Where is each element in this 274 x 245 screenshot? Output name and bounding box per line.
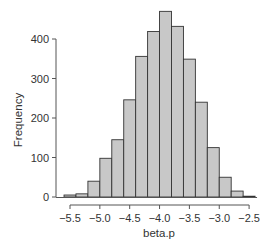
y-axis-title: Frequency — [12, 93, 24, 148]
x-tick-label: −5.5 — [59, 212, 81, 224]
histogram-bar — [112, 140, 124, 197]
histogram-bar — [136, 56, 148, 197]
y-tick-label: 300 — [31, 73, 49, 85]
histogram-bar — [231, 191, 243, 197]
y-tick-label: 400 — [31, 33, 49, 45]
histogram-bar — [243, 196, 255, 197]
x-tick-label: −5.0 — [89, 212, 111, 224]
histogram-bar — [124, 100, 136, 197]
histogram-bars — [64, 11, 255, 197]
histogram-bar — [183, 59, 195, 197]
y-tick-label: 200 — [31, 112, 49, 124]
histogram-bar — [195, 102, 207, 197]
x-tick-label: −3.5 — [179, 212, 201, 224]
x-tick-label: −3.0 — [208, 212, 230, 224]
x-tick-label: −2.5 — [238, 212, 260, 224]
x-axis-title: beta.p — [143, 227, 175, 239]
y-tick-label: 100 — [31, 152, 49, 164]
histogram-bar — [171, 26, 183, 197]
x-axis: −5.5−5.0−4.5−4.0−3.5−3.0−2.5 — [59, 205, 260, 224]
x-tick-label: −4.0 — [149, 212, 171, 224]
histogram-bar — [207, 148, 219, 197]
histogram-bar — [160, 11, 172, 197]
histogram-bar — [64, 195, 76, 197]
histogram-bar — [219, 177, 231, 197]
histogram-bar — [100, 158, 112, 197]
histogram-bar — [88, 181, 100, 197]
histogram-bar — [76, 194, 88, 197]
y-axis: 0100200300400 — [31, 33, 56, 203]
histogram-bar — [148, 31, 160, 197]
x-tick-label: −4.5 — [119, 212, 141, 224]
histogram-chart: 0100200300400 −5.5−5.0−4.5−4.0−3.5−3.0−2… — [0, 0, 274, 245]
y-tick-label: 0 — [43, 191, 49, 203]
